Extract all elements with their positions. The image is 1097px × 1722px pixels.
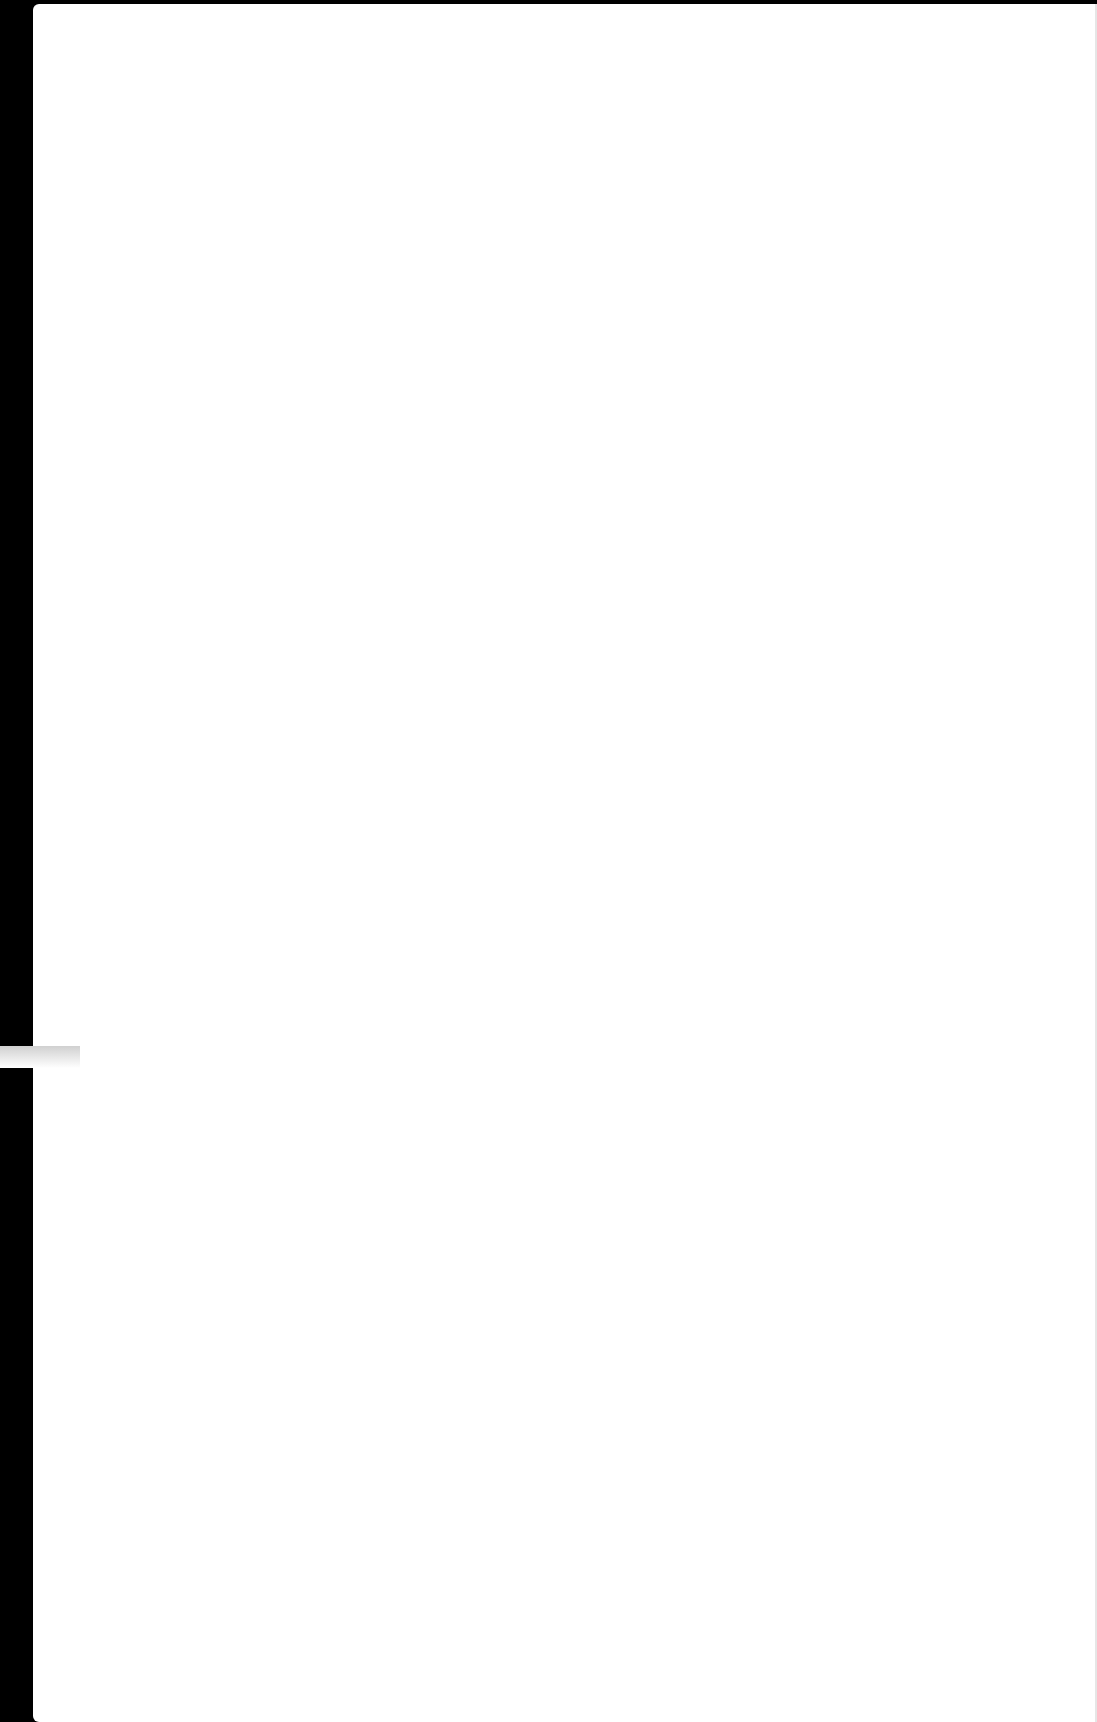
page-fold — [0, 1046, 80, 1068]
blank-page — [33, 4, 1097, 1722]
